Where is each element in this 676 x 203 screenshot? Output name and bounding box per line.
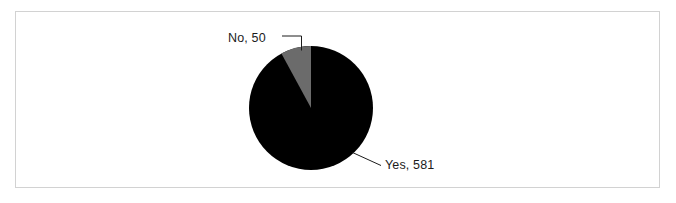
pie-label-no: No, 50 bbox=[228, 31, 266, 45]
pie-chart-canvas: No, 50 Yes, 581 bbox=[0, 0, 676, 203]
leader-line-yes bbox=[353, 153, 382, 166]
pie-label-yes: Yes, 581 bbox=[385, 158, 434, 172]
pie-chart-figure: No, 50 Yes, 581 bbox=[0, 0, 676, 203]
